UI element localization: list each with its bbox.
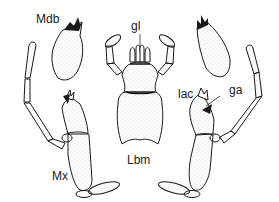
- label-lacinia: lac: [178, 88, 193, 100]
- right-maxilla: [157, 88, 220, 198]
- left-mandible: [52, 17, 83, 80]
- label-galea: ga: [229, 84, 242, 96]
- label-glossa: gl: [131, 20, 140, 32]
- label-maxilla: Mx: [52, 170, 68, 182]
- labium: [103, 33, 176, 144]
- label-labium: Lbm: [127, 154, 150, 166]
- left-maxilla: [62, 90, 121, 198]
- label-mandible: Mdb: [36, 13, 59, 25]
- right-mandible: [197, 15, 230, 77]
